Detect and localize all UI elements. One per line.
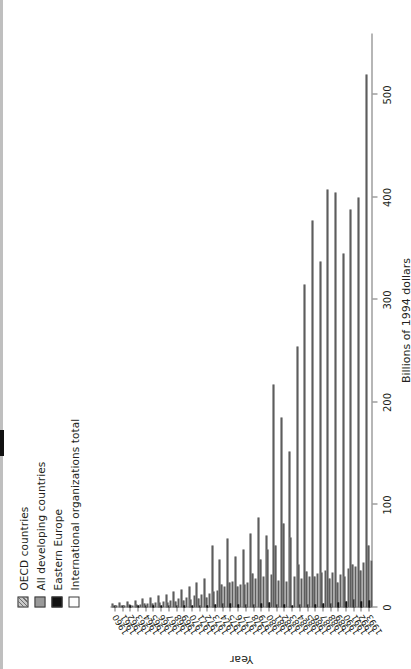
bar-international-organizations-1981 bbox=[277, 580, 279, 607]
bar-international-organizations-1972 bbox=[208, 593, 210, 607]
bar-international-organizations-1975 bbox=[231, 581, 233, 607]
bar-oecd-1991 bbox=[349, 209, 351, 607]
value-tick bbox=[372, 299, 377, 300]
bar-all-developing-countries-1982 bbox=[282, 523, 284, 607]
value-axis-title: Billions of 1994 dollars bbox=[399, 33, 411, 607]
value-tick-label: 0 bbox=[381, 604, 392, 610]
bar-oecd-1990 bbox=[342, 253, 344, 607]
category-tick bbox=[229, 607, 230, 611]
value-tick bbox=[372, 401, 377, 402]
bar-international-organizations-1968 bbox=[177, 598, 179, 607]
bar-all-developing-countries-1987 bbox=[320, 572, 322, 607]
bar-international-organizations-1976 bbox=[239, 584, 241, 607]
legend-label-international-orgs: International organizations total bbox=[68, 418, 80, 590]
value-tick bbox=[372, 94, 377, 95]
bar-international-organizations-1990 bbox=[347, 568, 349, 607]
bar-all-developing-countries-1985 bbox=[305, 571, 307, 607]
category-tick bbox=[222, 607, 223, 611]
category-tick bbox=[145, 607, 146, 611]
legend-swatch-international-orgs-icon bbox=[68, 596, 79, 607]
chart-page: OECD countries All developing countries … bbox=[0, 0, 411, 669]
legend-label-developing: All developing countries bbox=[34, 461, 46, 590]
category-tick bbox=[245, 607, 246, 611]
legend-item-oecd-countries: OECD countries bbox=[14, 418, 31, 607]
bar-international-organizations-1993 bbox=[370, 560, 372, 607]
category-tick bbox=[268, 607, 269, 611]
bar-oecd-1985 bbox=[303, 284, 305, 607]
bar-international-organizations-1965 bbox=[154, 602, 156, 607]
category-tick bbox=[353, 607, 354, 611]
bar-oecd-1993 bbox=[365, 74, 367, 607]
legend-item-international-organizations: International organizations total bbox=[65, 418, 82, 607]
bar-international-organizations-1991 bbox=[354, 566, 356, 607]
value-tick-label: 200 bbox=[381, 392, 392, 411]
category-tick bbox=[299, 607, 300, 611]
legend-swatch-eastern-europe-icon bbox=[51, 596, 62, 607]
bar-all-developing-countries-1983 bbox=[289, 537, 291, 607]
category-tick bbox=[176, 607, 177, 611]
bar-international-organizations-1973 bbox=[216, 590, 218, 607]
category-tick bbox=[129, 607, 130, 611]
category-tick bbox=[253, 607, 254, 611]
category-tick bbox=[260, 607, 261, 611]
category-tick bbox=[276, 607, 277, 611]
legend-item-eastern-europe: Eastern Europe bbox=[48, 418, 65, 607]
bar-all-developing-countries-1981 bbox=[274, 546, 276, 608]
bar-all-developing-countries-1978 bbox=[251, 573, 253, 607]
value-tick bbox=[372, 606, 377, 607]
category-tick bbox=[199, 607, 200, 611]
category-tick bbox=[152, 607, 153, 611]
category-tick bbox=[314, 607, 315, 611]
bar-international-organizations-1964 bbox=[146, 603, 148, 607]
value-tick bbox=[372, 196, 377, 197]
category-tick bbox=[283, 607, 284, 611]
bar-international-organizations-1971 bbox=[200, 594, 202, 607]
bar-international-organizations-1974 bbox=[223, 587, 225, 608]
category-tick bbox=[206, 607, 207, 611]
category-tick bbox=[291, 607, 292, 611]
category-tick bbox=[307, 607, 308, 611]
category-tick bbox=[345, 607, 346, 611]
bar-all-developing-countries-1986 bbox=[313, 576, 315, 607]
bar-all-developing-countries-1979 bbox=[259, 559, 261, 607]
bar-international-organizations-1983 bbox=[293, 576, 295, 607]
category-tick bbox=[168, 607, 169, 611]
category-tick bbox=[183, 607, 184, 611]
legend-label-oecd: OECD countries bbox=[17, 506, 29, 590]
bar-international-organizations-1969 bbox=[185, 597, 187, 607]
category-tick bbox=[322, 607, 323, 611]
value-tick bbox=[372, 504, 377, 505]
category-axis-title: Year bbox=[229, 653, 252, 666]
category-tick bbox=[137, 607, 138, 611]
bar-international-organizations-1985 bbox=[308, 576, 310, 607]
bar-oecd-1988 bbox=[326, 189, 328, 607]
value-tick-label: 300 bbox=[381, 290, 392, 309]
bar-international-organizations-1967 bbox=[169, 600, 171, 607]
bar-international-organizations-1979 bbox=[262, 576, 264, 607]
category-tick bbox=[122, 607, 123, 611]
bar-oecd-1989 bbox=[334, 192, 336, 607]
bar-international-organizations-1980 bbox=[270, 574, 272, 607]
value-axis-line bbox=[371, 33, 372, 607]
legend-swatch-oecd-icon bbox=[17, 596, 28, 607]
bar-oecd-1986 bbox=[311, 220, 313, 607]
legend-item-all-developing-countries: All developing countries bbox=[31, 418, 48, 607]
bar-all-developing-countries-1984 bbox=[297, 564, 299, 607]
bar-oecd-1987 bbox=[319, 261, 321, 607]
category-tick bbox=[337, 607, 338, 611]
category-tick bbox=[368, 607, 369, 611]
bar-international-organizations-1984 bbox=[300, 578, 302, 607]
chart-legend: OECD countries All developing countries … bbox=[14, 418, 82, 607]
value-tick-label: 400 bbox=[381, 187, 392, 206]
category-tick bbox=[191, 607, 192, 611]
bar-international-organizations-1970 bbox=[193, 595, 195, 607]
bar-international-organizations-1963 bbox=[139, 604, 141, 607]
category-tick bbox=[360, 607, 361, 611]
rotated-chart-stage: OECD countries All developing countries … bbox=[0, 0, 411, 669]
bar-international-organizations-1960 bbox=[115, 605, 117, 607]
bar-all-developing-countries-1980 bbox=[266, 549, 268, 607]
bar-international-organizations-1989 bbox=[339, 574, 341, 607]
bar-all-developing-countries-1993 bbox=[367, 546, 369, 608]
bar-international-organizations-1988 bbox=[331, 572, 333, 607]
bar-international-organizations-1966 bbox=[162, 601, 164, 607]
